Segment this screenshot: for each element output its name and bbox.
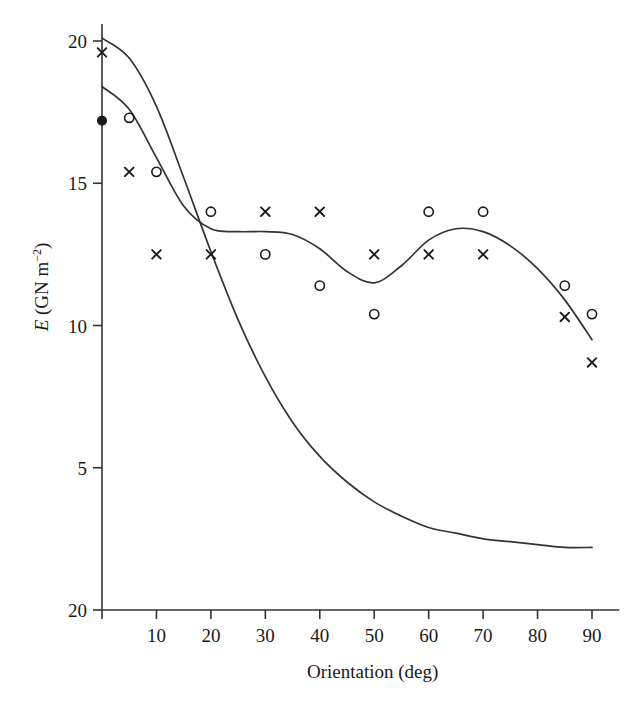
data-point-circle: [261, 250, 270, 259]
axis-labels-group: 205101520102030405060708090Orientation (…: [30, 31, 602, 683]
y-axis-tick-label: 15: [68, 173, 87, 194]
filled-circle-data: [98, 116, 107, 125]
axes-group: [93, 24, 619, 619]
data-point-circle: [152, 167, 161, 176]
data-point-cross: [125, 168, 134, 177]
x-axis-tick-label: 90: [583, 625, 602, 646]
x-axis-tick-label: 20: [201, 625, 220, 646]
cross-data: [98, 48, 597, 367]
data-point-circle: [479, 207, 488, 216]
data-point-filled-circle: [98, 116, 107, 125]
y-axis-tick-label: 20: [68, 31, 87, 52]
y-axis-tick-label: 20: [68, 600, 87, 621]
data-point-circle: [125, 113, 134, 122]
data-markers-group: [98, 48, 597, 367]
scatter-plot: 205101520102030405060708090Orientation (…: [0, 0, 637, 705]
data-point-cross: [315, 207, 324, 216]
x-axis-tick-label: 30: [256, 625, 275, 646]
y-axis-tick-label: 10: [68, 316, 87, 337]
x-axis-title: Orientation (deg): [307, 661, 438, 683]
data-point-cross: [370, 250, 379, 259]
x-axis-tick-label: 80: [528, 625, 547, 646]
x-axis-tick-label: 60: [419, 625, 438, 646]
data-point-circle: [424, 207, 433, 216]
data-point-cross: [152, 250, 161, 259]
data-point-cross: [560, 313, 569, 322]
data-point-circle: [560, 281, 569, 290]
data-point-cross: [261, 207, 270, 216]
data-point-circle: [206, 207, 215, 216]
open-circle-data: [125, 113, 597, 319]
x-axis-tick-label: 10: [147, 625, 166, 646]
data-point-cross: [588, 358, 597, 367]
upper-model-curve: [102, 87, 592, 340]
figure-container: 205101520102030405060708090Orientation (…: [0, 0, 637, 705]
x-axis-tick-label: 50: [365, 625, 384, 646]
y-axis-title: E (GN m−2): [30, 243, 53, 333]
data-point-cross: [424, 250, 433, 259]
data-point-circle: [370, 310, 379, 319]
data-point-circle: [587, 310, 596, 319]
x-axis-tick-label: 70: [474, 625, 493, 646]
data-point-cross: [479, 250, 488, 259]
model-curves-group: [102, 38, 592, 547]
lower-model-curve: [102, 38, 592, 547]
x-axis-tick-label: 40: [310, 625, 329, 646]
y-axis-tick-label: 5: [78, 458, 88, 479]
data-point-circle: [315, 281, 324, 290]
